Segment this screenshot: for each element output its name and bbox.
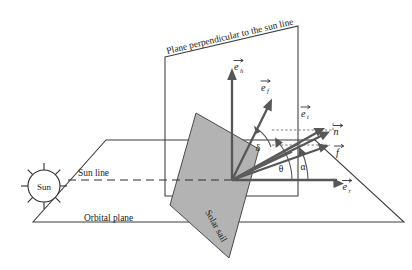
solar-sail-diagram: Sun Sun line Orbital plane Plane perpend… [0,0,412,270]
angle-delta-label: δ [256,142,261,153]
sun-ray-sw [28,197,33,202]
angle-theta-label: θ [279,163,284,174]
label-e-h-base: e [234,61,239,72]
angle-alpha-label: α [300,161,305,172]
figure-canvas: Sun Sun line Orbital plane Plane perpend… [0,0,412,270]
orbital-plane-label: Orbital plane [84,213,133,223]
sun-ray-ne [55,170,60,175]
label-e-r-group: e r [342,179,352,194]
label-f-group: f [334,144,344,158]
label-e-f-sub: f [267,87,270,94]
sun-ray-se [55,197,60,202]
perpendicular-plane-label: Plane perpendicular to the sun line [165,16,294,55]
label-e-t-sub: t [307,113,309,120]
solar-sail-surface [170,113,259,258]
label-e-f-base: e [261,82,266,93]
label-e-t-base: e [301,108,306,119]
label-e-r-sub: r [349,187,352,194]
solar-sail-group [170,113,259,258]
label-e-f-group: e f [261,79,271,94]
sun-label: Sun [37,182,52,192]
label-e-t-group: e t [301,105,311,120]
label-e-h-sub: h [240,67,244,74]
label-n-group: n [333,124,343,137]
label-n: n [334,126,339,137]
sun-symbol-group: Sun [21,163,67,209]
label-e-h-group: e h [234,59,245,74]
label-f: f [336,147,340,158]
sun-ray-nw [28,170,33,175]
perpendicular-plane-label-group: Plane perpendicular to the sun line [165,16,294,55]
sun-line-label: Sun line [78,168,109,178]
label-e-r-base: e [343,181,348,192]
